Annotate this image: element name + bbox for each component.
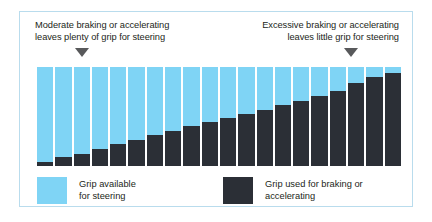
legend-label-used: Grip used for braking or accelerating xyxy=(265,177,363,202)
bar xyxy=(165,67,181,166)
bar-segment-used xyxy=(385,73,401,166)
down-triangle-icon-right xyxy=(344,48,358,57)
callout-right-line2: leaves little grip for steering xyxy=(214,32,399,44)
legend-swatch-used xyxy=(223,177,253,204)
stacked-bar-chart xyxy=(37,67,401,166)
bar xyxy=(348,67,364,166)
bar-segment-used xyxy=(202,122,218,166)
bar xyxy=(183,67,199,166)
bar-segment-used xyxy=(74,154,90,166)
bar-segment-used xyxy=(37,162,53,166)
bar xyxy=(366,67,382,166)
legend-used-line2: accelerating xyxy=(265,190,363,202)
bar xyxy=(55,67,71,166)
bar xyxy=(275,67,291,166)
bar xyxy=(220,67,236,166)
bar xyxy=(128,67,144,166)
bar xyxy=(311,67,327,166)
legend-item-grip-used: Grip used for braking or accelerating xyxy=(223,177,363,204)
bar xyxy=(257,67,273,166)
legend-available-line2: for steering xyxy=(79,190,136,202)
bar-segment-used xyxy=(220,118,236,166)
bar-segment-used xyxy=(348,83,364,166)
bar-segment-used xyxy=(183,126,199,166)
bar xyxy=(37,67,53,166)
bar xyxy=(385,67,401,166)
callout-left-line1: Moderate braking or accelerating xyxy=(35,20,225,32)
infographic-panel: Moderate braking or accelerating leaves … xyxy=(19,11,413,207)
legend-available-line1: Grip available xyxy=(79,178,136,190)
chart-legend: Grip available for steering Grip used fo… xyxy=(37,177,401,207)
bar-segment-used xyxy=(311,96,327,166)
callout-left-line2: leaves plenty of grip for steering xyxy=(35,32,225,44)
down-triangle-icon-left xyxy=(75,48,89,57)
legend-item-grip-available: Grip available for steering xyxy=(37,177,136,204)
callout-right-line1: Excessive braking or accelerating xyxy=(214,20,399,32)
bar xyxy=(330,67,346,166)
bar xyxy=(147,67,163,166)
bar-segment-used xyxy=(55,157,71,166)
legend-swatch-available xyxy=(37,177,67,204)
bar xyxy=(293,67,309,166)
callout-left: Moderate braking or accelerating leaves … xyxy=(35,20,225,43)
bar-segment-used xyxy=(330,91,346,166)
bar xyxy=(92,67,108,166)
bar xyxy=(74,67,90,166)
bar-segment-used xyxy=(128,140,144,166)
bar-segment-used xyxy=(165,131,181,166)
bar-segment-used xyxy=(238,114,254,166)
bar xyxy=(202,67,218,166)
bar-segment-used xyxy=(257,110,273,166)
bar-segment-used xyxy=(110,144,126,166)
callout-right: Excessive braking or accelerating leaves… xyxy=(214,20,399,43)
bar xyxy=(110,67,126,166)
legend-used-line1: Grip used for braking or xyxy=(265,178,363,190)
bar-segment-used xyxy=(293,101,309,166)
legend-label-available: Grip available for steering xyxy=(79,177,136,202)
bar-segment-used xyxy=(366,77,382,166)
bar xyxy=(238,67,254,166)
bar-segment-used xyxy=(275,105,291,166)
bar-segment-used xyxy=(147,135,163,166)
bar-segment-used xyxy=(92,149,108,166)
